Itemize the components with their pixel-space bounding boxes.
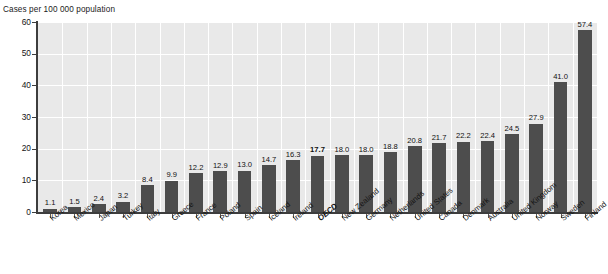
gridline-vertical [184, 22, 185, 212]
gridline-vertical [257, 22, 258, 212]
bar-value-label: 27.9 [520, 114, 552, 122]
gridline-vertical [500, 22, 501, 212]
y-tick-label: 50 [1, 49, 31, 58]
y-axis-tick-labels: 0102030405060 [0, 0, 31, 274]
y-tick-label: 0 [1, 208, 31, 217]
gridline-horizontal [38, 117, 597, 118]
bar-value-label: 9.9 [156, 171, 188, 179]
y-tick-mark [32, 22, 37, 23]
gridline-vertical [87, 22, 88, 212]
gridline-vertical [451, 22, 452, 212]
y-tick-label: 10 [1, 176, 31, 185]
gridline-vertical [305, 22, 306, 212]
gridline-horizontal [38, 85, 597, 86]
y-tick-label: 60 [1, 18, 31, 27]
gridline-vertical [427, 22, 428, 212]
bar [554, 82, 568, 212]
y-tick-label: 30 [1, 113, 31, 122]
bar-value-label: 57.4 [569, 21, 601, 29]
gridline-vertical [62, 22, 63, 212]
y-tick-label: 40 [1, 81, 31, 90]
y-tick-mark [32, 85, 37, 86]
bar-value-label: 3.2 [107, 192, 139, 200]
bar [335, 155, 349, 212]
gridline-vertical [208, 22, 209, 212]
bar [165, 181, 179, 212]
y-tick-mark [32, 212, 37, 213]
y-tick-mark [32, 149, 37, 150]
plot-area [38, 22, 597, 212]
y-tick-mark [32, 117, 37, 118]
gridline-vertical [475, 22, 476, 212]
bar-value-label: 41.0 [545, 73, 577, 81]
bar [578, 30, 592, 212]
gridline-vertical [403, 22, 404, 212]
gridline-horizontal [38, 54, 597, 55]
bar-chart: Cases per 100 000 population 01020304050… [0, 0, 608, 274]
gridline-vertical [281, 22, 282, 212]
bar [262, 165, 276, 212]
gridline-vertical [232, 22, 233, 212]
bar-value-label: 24.5 [496, 125, 528, 133]
gridline-vertical [354, 22, 355, 212]
gridline-horizontal [38, 22, 597, 23]
gridline-vertical [573, 22, 574, 212]
gridline-vertical [378, 22, 379, 212]
bar [311, 156, 325, 212]
gridline-vertical [330, 22, 331, 212]
y-tick-mark [32, 54, 37, 55]
gridline-vertical [111, 22, 112, 212]
y-tick-mark [32, 180, 37, 181]
y-tick-label: 20 [1, 144, 31, 153]
